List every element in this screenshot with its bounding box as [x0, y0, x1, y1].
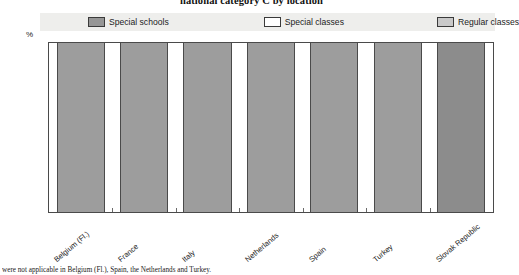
stacked-bar[interactable] — [57, 43, 105, 212]
bar-group[interactable] — [366, 43, 429, 212]
stacked-bar[interactable] — [247, 43, 295, 212]
bar-segment-special-schools[interactable] — [248, 43, 294, 212]
x-axis-label-slovak-republic: Slovak Republic — [435, 222, 482, 264]
x-axis-tick-labels: Belgium (Fl.)FranceItalyNetherlandsSpain… — [48, 214, 494, 264]
legend-item-special-schools[interactable]: Special schools — [88, 17, 169, 27]
bar-segment-special-schools[interactable] — [184, 43, 230, 212]
bar-group[interactable] — [176, 43, 239, 212]
stacked-bar[interactable] — [374, 43, 422, 212]
legend-label-regular-classes: Regular classes — [458, 17, 519, 27]
stacked-bar[interactable] — [310, 43, 358, 212]
x-axis-label-turkey: Turkey — [371, 242, 394, 264]
stacked-bar[interactable] — [120, 43, 168, 212]
bar-segment-special-schools[interactable] — [121, 43, 167, 212]
bar-segment-special-schools[interactable] — [438, 43, 484, 212]
chart-footnote: were not applicable in Belgium (Fl.), Sp… — [2, 266, 502, 275]
bar-groups — [49, 43, 493, 212]
bar-group[interactable] — [49, 43, 112, 212]
chart-title: national category C by location — [0, 0, 503, 7]
plot-area — [48, 42, 494, 213]
bar-segment-special-schools[interactable] — [375, 43, 421, 212]
chart-legend: Special schools Special classes Regular … — [40, 13, 495, 31]
x-axis-label-belgium-fl: Belgium (Fl.) — [52, 229, 91, 264]
x-axis-label-france: France — [116, 242, 140, 264]
legend-label-special-classes: Special classes — [285, 17, 344, 27]
legend-swatch-special-schools — [88, 17, 105, 27]
bar-group[interactable] — [239, 43, 302, 212]
bar-group[interactable] — [112, 43, 175, 212]
bar-segment-special-schools[interactable] — [311, 43, 357, 212]
legend-item-special-classes[interactable]: Special classes — [264, 17, 344, 27]
stacked-bar[interactable] — [437, 43, 485, 212]
x-axis-label-spain: Spain — [307, 245, 328, 264]
legend-item-regular-classes[interactable]: Regular classes — [437, 17, 519, 27]
x-axis-label-italy: Italy — [180, 248, 196, 264]
x-axis-label-netherlands: Netherlands — [244, 231, 281, 264]
bar-segment-special-schools[interactable] — [58, 43, 104, 212]
bar-group[interactable] — [303, 43, 366, 212]
legend-swatch-regular-classes — [437, 17, 454, 27]
bar-group[interactable] — [430, 43, 493, 212]
legend-swatch-special-classes — [264, 17, 281, 27]
legend-label-special-schools: Special schools — [109, 17, 169, 27]
stacked-bar[interactable] — [183, 43, 231, 212]
y-axis-tick-labels: 1009080706050403020100 — [0, 0, 48, 275]
